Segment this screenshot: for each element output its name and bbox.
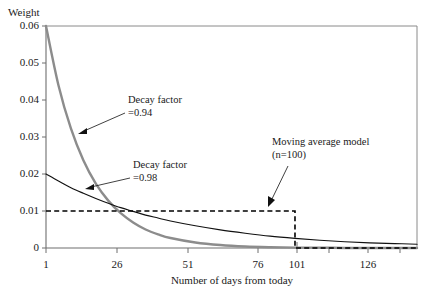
y-tick-label-002: 0.02 xyxy=(20,167,39,179)
y-tick-label-001: 0.01 xyxy=(20,204,39,216)
x-tick-label-76: 76 xyxy=(253,258,265,270)
annotation-moving-average-line1: Moving average model xyxy=(272,136,369,147)
y-tick-label-006: 0.06 xyxy=(20,19,40,31)
y-tick-label-004: 0.04 xyxy=(20,93,40,105)
annotation-moving-average: Moving average model (n=100) xyxy=(268,136,369,207)
chart-canvas: 0 0.01 0.02 0.03 0.04 0.05 0.06 Weight 1… xyxy=(0,0,432,290)
annotation-decay-094-line1: Decay factor xyxy=(128,94,182,105)
annotation-decay-098: Decay factor =0.98 xyxy=(85,159,187,190)
y-tick-label-003: 0.03 xyxy=(20,130,40,142)
y-tick-label-0: 0 xyxy=(34,241,40,253)
annotation-decay-094-arrowhead xyxy=(78,128,87,134)
annotation-decay-094: Decay factor =0.94 xyxy=(78,94,182,134)
weight-decay-chart: 0 0.01 0.02 0.03 0.04 0.05 0.06 Weight 1… xyxy=(0,0,432,290)
annotation-decay-098-arrowhead xyxy=(85,184,94,190)
annotation-decay-094-line2: =0.94 xyxy=(128,107,153,118)
annotation-decay-098-line1: Decay factor xyxy=(133,159,187,170)
x-tick-label-1: 1 xyxy=(43,258,49,270)
annotation-decay-098-line2: =0.98 xyxy=(133,172,157,183)
x-tick-label-126: 126 xyxy=(360,258,377,270)
x-tick-label-26: 26 xyxy=(112,258,124,270)
annotation-moving-average-arrowhead xyxy=(268,196,275,207)
y-axis-ticks xyxy=(42,26,46,248)
x-tick-label-101: 101 xyxy=(289,258,306,270)
x-tick-label-51: 51 xyxy=(183,258,194,270)
y-tick-label-005: 0.05 xyxy=(20,56,40,68)
annotation-moving-average-line2: (n=100) xyxy=(272,149,306,161)
x-axis-title: Number of days from today xyxy=(171,274,294,286)
y-axis-title: Weight xyxy=(8,6,40,18)
